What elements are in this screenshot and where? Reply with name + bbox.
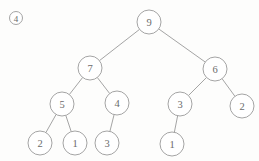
tree-node[interactable]: 1 bbox=[160, 132, 184, 156]
tree-edge bbox=[188, 77, 206, 95]
tree-node-label: 1 bbox=[72, 138, 77, 149]
tree-node[interactable]: 5 bbox=[50, 92, 74, 116]
tree-node-label: 5 bbox=[59, 99, 64, 110]
figure-marker: 4 bbox=[10, 12, 23, 25]
tree-node-label: 2 bbox=[239, 101, 244, 112]
tree-edge bbox=[69, 77, 82, 94]
tree-node-label: 1 bbox=[169, 139, 174, 150]
tree-node-label: 9 bbox=[146, 17, 151, 28]
tree-edge bbox=[66, 115, 71, 131]
tree-edge bbox=[46, 114, 56, 132]
tree-node[interactable]: 4 bbox=[105, 91, 129, 115]
tree-edge bbox=[159, 29, 205, 62]
tree-node-label: 7 bbox=[87, 63, 92, 74]
tree-node-label: 2 bbox=[37, 138, 42, 149]
binary-tree-diagram: 97654322131 4 bbox=[0, 0, 259, 161]
figure-canvas: 97654322131 4 bbox=[0, 0, 259, 161]
tree-node[interactable]: 3 bbox=[168, 92, 192, 116]
tree-node-label: 6 bbox=[212, 64, 217, 75]
tree-edge bbox=[97, 78, 109, 94]
tree-node-label: 4 bbox=[114, 98, 120, 109]
tree-node[interactable]: 2 bbox=[28, 131, 52, 155]
tree-node[interactable]: 2 bbox=[230, 94, 254, 118]
tree-edge bbox=[222, 79, 235, 97]
tree-edge bbox=[174, 116, 177, 132]
tree-node[interactable]: 3 bbox=[95, 131, 119, 155]
tree-edge bbox=[110, 115, 114, 132]
tree-node[interactable]: 1 bbox=[63, 131, 87, 155]
tree-nodes: 97654322131 bbox=[28, 10, 254, 156]
tree-node[interactable]: 6 bbox=[203, 57, 227, 81]
tree-edges bbox=[46, 29, 235, 133]
tree-node[interactable]: 9 bbox=[137, 10, 161, 34]
tree-node-label: 3 bbox=[104, 138, 109, 149]
figure-marker-label: 4 bbox=[14, 14, 19, 24]
tree-edge bbox=[99, 29, 139, 60]
tree-node[interactable]: 7 bbox=[78, 56, 102, 80]
tree-node-label: 3 bbox=[177, 99, 182, 110]
